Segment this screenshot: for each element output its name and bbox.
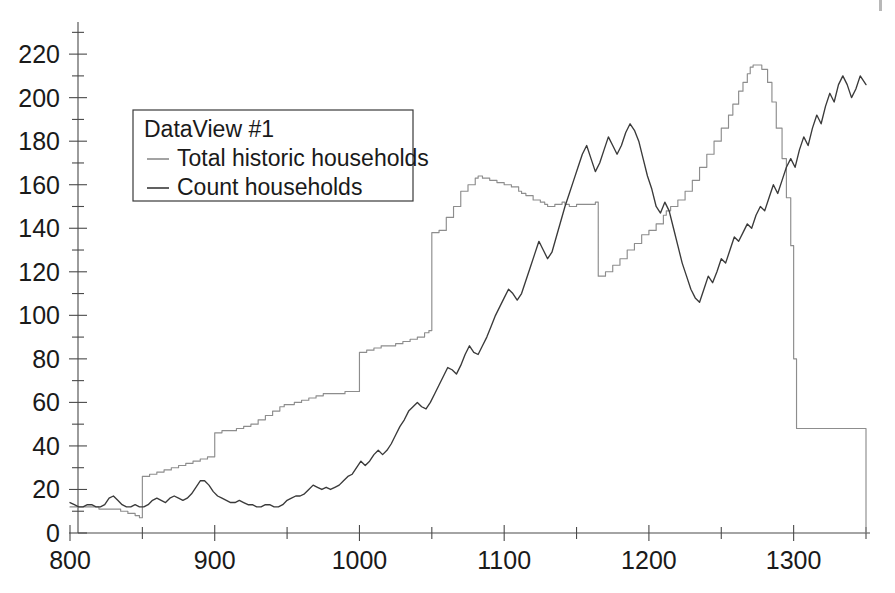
y-axis-tick-label: 60 (32, 388, 60, 416)
chart-container: 2202001801601401201008060402008009001000… (0, 0, 895, 593)
x-axis-tick-label: 1000 (332, 546, 388, 574)
line-chart: 2202001801601401201008060402008009001000… (0, 0, 895, 593)
y-axis-tick-label: 20 (32, 475, 60, 503)
x-axis-tick-label: 800 (49, 546, 91, 574)
legend-entry-label: Total historic households (177, 145, 429, 171)
y-axis-tick-label: 80 (32, 345, 60, 373)
x-axis-tick-label: 1300 (766, 546, 822, 574)
legend-title: DataView #1 (144, 116, 274, 142)
y-axis-tick-label: 220 (18, 40, 60, 68)
y-axis-tick-label: 40 (32, 432, 60, 460)
y-axis-tick-label: 180 (18, 127, 60, 155)
x-axis-tick-label: 900 (194, 546, 236, 574)
x-axis-tick-label: 1200 (621, 546, 677, 574)
y-axis-tick-label: 0 (46, 519, 60, 547)
x-axis-tick-label: 1100 (477, 546, 531, 574)
axes: 2202001801601401201008060402008009001000… (18, 22, 870, 574)
y-axis-tick-label: 120 (18, 258, 60, 286)
y-axis-tick-label: 160 (18, 171, 60, 199)
page-corner-mark (879, 0, 882, 11)
chart-legend: DataView #1Total historic householdsCoun… (133, 110, 429, 201)
y-axis-tick-label: 200 (18, 84, 60, 112)
y-axis-tick-label: 100 (18, 301, 60, 329)
y-axis-tick-label: 140 (18, 214, 60, 242)
legend-entry-label: Count households (177, 174, 362, 200)
